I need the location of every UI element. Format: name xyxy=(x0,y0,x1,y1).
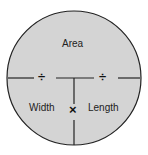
divide-right-icon: ÷ xyxy=(99,69,106,84)
area-label: Area xyxy=(62,38,83,49)
length-label: Length xyxy=(88,102,119,113)
width-label: Width xyxy=(29,102,55,113)
multiply-icon: × xyxy=(69,102,77,117)
divide-left-icon: ÷ xyxy=(38,69,45,84)
formula-circle-graphic xyxy=(0,0,148,155)
